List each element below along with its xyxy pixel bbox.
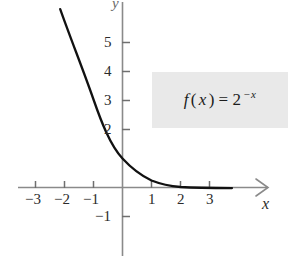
equation-equals: =	[217, 90, 231, 109]
x-tick-label-minus-2: −2	[54, 192, 70, 207]
equation-base: 2	[231, 90, 244, 109]
y-tick-label-4: 4	[104, 64, 112, 79]
x-tick-label-2: 2	[177, 192, 185, 207]
y-tick-label-5: 5	[104, 35, 112, 50]
x-tick-label-minus-3: −3	[25, 192, 41, 207]
y-tick-label-2: 2	[104, 122, 112, 137]
equation-exponent: −x	[243, 88, 256, 100]
x-tick-label-3: 3	[206, 192, 214, 207]
equation-x: x	[199, 90, 207, 109]
equation-annotation-box: f(x)=2−x	[152, 72, 288, 128]
equation-close-paren: )	[207, 90, 217, 109]
y-axis-label: y	[112, 0, 119, 11]
exponential-decay-graph: 5 4 3 2 −1 −3 −2 −1 1 2 3 y x f(x)=2−x	[0, 0, 291, 258]
y-tick-label-minus-1: −1	[95, 209, 111, 224]
x-axis-label: x	[262, 196, 269, 212]
x-tick-label-minus-1: −1	[83, 192, 99, 207]
y-tick-label-3: 3	[104, 93, 112, 108]
equation-text: f(x)=2−x	[184, 90, 256, 110]
graph-canvas	[0, 0, 291, 258]
equation-open-paren: (	[189, 90, 199, 109]
x-tick-label-1: 1	[148, 192, 156, 207]
